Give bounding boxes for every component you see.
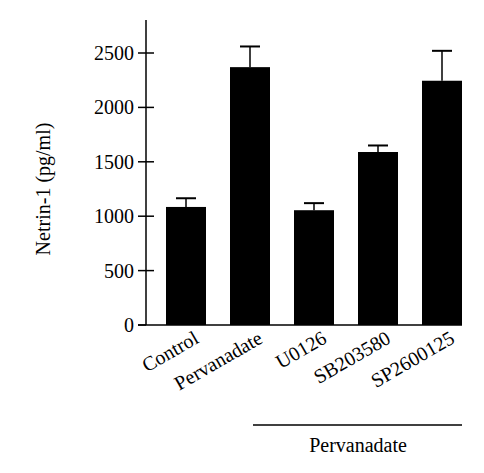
bar-control bbox=[166, 207, 206, 325]
y-tick-label: 0 bbox=[124, 314, 134, 336]
bar-chart: 05001000150020002500 ControlPervanadateU… bbox=[0, 0, 484, 473]
bar-pervanadate bbox=[230, 67, 270, 325]
y-axis-title: Netrin-1 (pg/ml) bbox=[32, 123, 55, 256]
y-tick-label: 500 bbox=[104, 260, 134, 282]
bars bbox=[166, 46, 462, 325]
x-axis-labels: ControlPervanadateU0126SB203580SP2600125 bbox=[138, 326, 458, 394]
bar-sp2600125 bbox=[422, 81, 462, 325]
bar-u0126 bbox=[294, 210, 334, 325]
y-axis: 05001000150020002500 bbox=[94, 20, 462, 336]
y-tick-label: 2000 bbox=[94, 96, 134, 118]
y-tick-label: 2500 bbox=[94, 42, 134, 64]
group-label: Pervanadate bbox=[309, 434, 407, 456]
bar-sb203580 bbox=[358, 152, 398, 325]
y-tick-label: 1500 bbox=[94, 151, 134, 173]
y-tick-label: 1000 bbox=[94, 205, 134, 227]
